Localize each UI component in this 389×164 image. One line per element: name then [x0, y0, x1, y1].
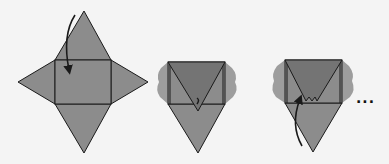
bottom-triangle [168, 104, 225, 153]
right-side-flap [225, 62, 237, 104]
base-square [55, 60, 111, 104]
left-side-flap [157, 62, 168, 104]
step-2-net [157, 62, 236, 153]
bottom-triangle [55, 104, 111, 153]
right-side-flap [342, 60, 354, 103]
step-3-net [272, 60, 353, 152]
continuation-ellipsis: ... [356, 90, 375, 106]
bottom-triangle [285, 103, 342, 152]
step-1-net [18, 11, 148, 153]
left-side-flap [272, 60, 285, 103]
top-triangle [55, 11, 111, 60]
left-triangle [18, 60, 55, 104]
pyramid-folding-diagram [0, 0, 389, 164]
right-triangle [111, 60, 148, 104]
